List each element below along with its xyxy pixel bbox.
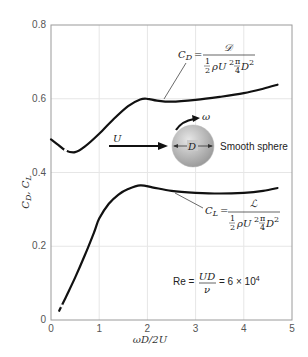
svg-text:ρU: ρU xyxy=(236,218,252,229)
svg-text:1: 1 xyxy=(205,57,210,66)
y-tick-label: 0 xyxy=(40,314,46,325)
svg-text:D: D xyxy=(265,218,274,229)
x-tick-label: 2 xyxy=(145,323,151,334)
curve-cl xyxy=(59,185,277,310)
x-tick-label: 3 xyxy=(193,323,199,334)
spin-label: ω xyxy=(202,111,210,122)
svg-text:2: 2 xyxy=(274,215,279,224)
y-tick-labels: 00.20.40.60.8 xyxy=(32,19,46,325)
svg-text:1: 1 xyxy=(230,214,235,223)
cd-equation: CD= 𝒟 1 2 ρU 2 π 4 D 2 xyxy=(164,42,255,99)
y-axis-title: CD, CL xyxy=(20,175,33,208)
svg-text:π: π xyxy=(235,57,240,66)
y-tick-label: 0.2 xyxy=(32,240,46,251)
svg-text:4: 4 xyxy=(260,223,265,232)
svg-text:2: 2 xyxy=(254,215,259,224)
x-tick-label: 1 xyxy=(96,323,102,334)
flow-arrow-icon xyxy=(158,142,168,150)
x-tick-labels: 012345 xyxy=(48,323,295,334)
x-tick-label: 5 xyxy=(289,323,295,334)
curve-gap xyxy=(64,149,67,152)
curve-gap xyxy=(60,304,63,307)
y-tick-label: 0.6 xyxy=(32,93,46,104)
y-tick-label: 0.4 xyxy=(32,167,46,178)
svg-text:ℒ: ℒ xyxy=(250,198,258,209)
diameter-label: D xyxy=(187,141,196,152)
svg-text:2: 2 xyxy=(249,58,254,67)
svg-text:D: D xyxy=(240,61,249,72)
svg-text:2: 2 xyxy=(230,223,235,232)
svg-text:π: π xyxy=(260,214,265,223)
svg-text:ρU: ρU xyxy=(211,61,227,72)
svg-text:2: 2 xyxy=(205,66,210,75)
sphere-diagram: U D ω Smooth sphere xyxy=(109,111,288,167)
svg-text:𝒟: 𝒟 xyxy=(224,42,234,53)
x-tick-label: 0 xyxy=(48,323,54,334)
svg-text:= 6 × 104: = 6 × 104 xyxy=(219,275,260,287)
svg-text:2: 2 xyxy=(229,58,234,67)
reynolds-number: Re = UD ν = 6 × 104 xyxy=(173,271,260,295)
y-tick-label: 0.8 xyxy=(32,19,46,30)
x-axis-title: ωD/2U xyxy=(133,334,168,345)
lift-drag-chart: 00.20.40.60.8 012345 ωD/2U CD, CL CD= 𝒟 … xyxy=(0,0,308,357)
svg-text:CD, CL: CD, CL xyxy=(20,175,33,208)
svg-text:4: 4 xyxy=(235,66,240,75)
svg-text:CL=: CL= xyxy=(205,205,228,218)
svg-text:Re =: Re = xyxy=(173,276,195,287)
flow-velocity-label: U xyxy=(113,133,122,144)
x-tick-label: 4 xyxy=(241,323,247,334)
cl-equation: CL= ℒ 1 2 ρU 2 π 4 D 2 xyxy=(175,193,280,232)
svg-text:UD: UD xyxy=(199,271,215,282)
sphere-label: Smooth sphere xyxy=(220,141,288,152)
svg-text:ν: ν xyxy=(204,284,210,295)
svg-text:CD=: CD= xyxy=(178,49,202,62)
